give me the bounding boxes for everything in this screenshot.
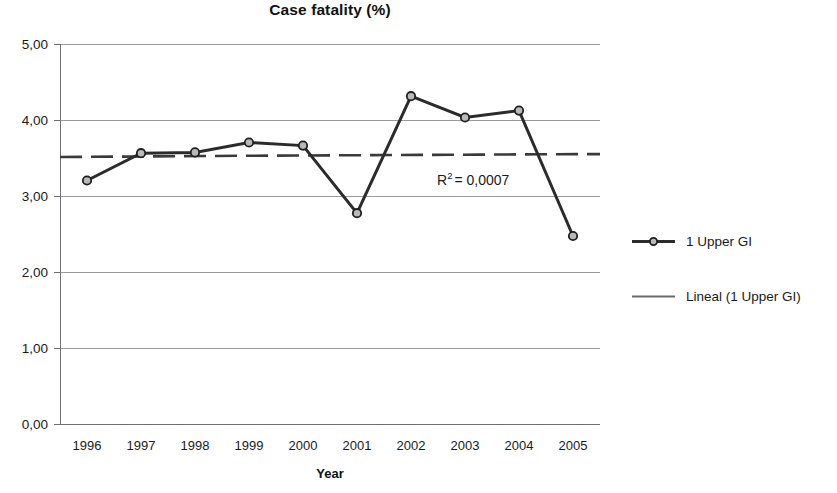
series-markers (83, 92, 577, 240)
legend-swatch-marker-icon (650, 238, 657, 245)
r-squared-prefix: R (437, 172, 447, 188)
x-tick-label-2005: 2005 (559, 438, 588, 453)
data-point-marker[interactable] (83, 176, 91, 184)
x-tick-label-2004: 2004 (505, 438, 534, 453)
legend-item-lineal-1-upper-gi[interactable]: Lineal (1 Upper GI) (632, 289, 801, 304)
legend-label-lineal-1-upper-gi: Lineal (1 Upper GI) (686, 289, 801, 304)
x-tick-label-2001: 2001 (343, 438, 372, 453)
x-tick-label-1999: 1999 (235, 438, 264, 453)
y-tick-label-2: 2,00 (22, 265, 48, 280)
legend-item-1-upper-gi[interactable]: 1 Upper GI (632, 234, 752, 249)
x-axis-title: Year (316, 466, 343, 481)
chart-plot-area: 5,00 4,00 3,00 2,00 1,00 0,00 R2= 0,0007… (0, 0, 837, 493)
x-axis-tick-labels: 1996199719981999200020012002200320042005 (73, 438, 588, 453)
data-point-marker[interactable] (461, 113, 469, 121)
gridlines (60, 45, 600, 349)
data-point-marker[interactable] (353, 209, 361, 217)
series-line-1-upper-gi (87, 96, 573, 236)
data-point-marker[interactable] (191, 148, 199, 156)
y-tick-label-3: 3,00 (22, 189, 48, 204)
x-tick-label-2002: 2002 (397, 438, 426, 453)
r-squared-superscript: 2 (447, 170, 452, 181)
svg-text:R2= 0,0007: R2= 0,0007 (437, 170, 510, 188)
y-axis-tick-labels: 5,00 4,00 3,00 2,00 1,00 0,00 (22, 37, 48, 432)
x-tick-label-2000: 2000 (289, 438, 318, 453)
data-point-marker[interactable] (569, 232, 577, 240)
data-point-marker[interactable] (407, 92, 415, 100)
r-squared-suffix: = 0,0007 (454, 172, 509, 188)
y-tick-label-1: 1,00 (22, 341, 48, 356)
data-point-marker[interactable] (245, 138, 253, 146)
x-tick-label-1998: 1998 (181, 438, 210, 453)
x-tick-label-1996: 1996 (73, 438, 102, 453)
y-tick-label-5: 5,00 (22, 37, 48, 52)
data-point-marker[interactable] (299, 141, 307, 149)
y-tick-label-4: 4,00 (22, 113, 48, 128)
x-tick-label-2003: 2003 (451, 438, 480, 453)
legend-label-1-upper-gi: 1 Upper GI (686, 234, 752, 249)
r-squared-annotation: R2= 0,0007 (437, 170, 510, 188)
chart-legend: 1 Upper GI Lineal (1 Upper GI) (632, 234, 801, 304)
axes (54, 44, 600, 425)
data-point-marker[interactable] (137, 149, 145, 157)
data-point-marker[interactable] (515, 106, 523, 114)
x-tick-label-1997: 1997 (127, 438, 156, 453)
chart-container: Case fatality (%) 5,00 4,00 3,00 2,00 (0, 0, 837, 493)
y-tick-label-0: 0,00 (22, 417, 48, 432)
